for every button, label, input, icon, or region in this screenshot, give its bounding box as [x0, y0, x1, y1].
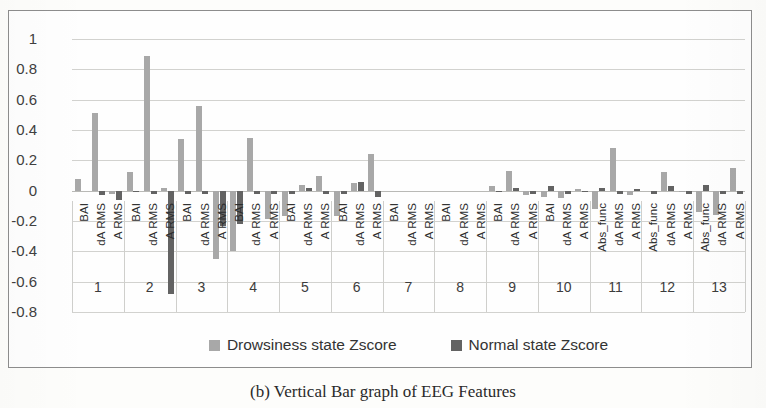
metric-column — [503, 39, 520, 312]
bar-drowsiness — [730, 168, 736, 191]
group-number: 1 — [72, 279, 124, 295]
bar-drowsiness — [696, 191, 702, 212]
metric-column — [262, 39, 279, 312]
bar-normal — [358, 182, 364, 191]
plot-area: 10.80.60.40.20-0.2-0.4-0.6-0.8 — [72, 39, 745, 312]
group-number: 13 — [693, 279, 745, 295]
bar-series-container — [72, 39, 745, 312]
bar-drowsiness — [109, 191, 115, 194]
bar-normal — [202, 191, 208, 194]
metric-column — [486, 39, 503, 312]
group-number: 9 — [486, 279, 538, 295]
group-number: 12 — [641, 279, 693, 295]
bar-drowsiness — [679, 191, 685, 193]
bar-drowsiness — [127, 172, 133, 190]
gridline — [72, 312, 745, 313]
metric-column — [676, 39, 693, 312]
bar-drowsiness — [282, 191, 288, 217]
bar-drowsiness — [316, 176, 322, 191]
group-number: 2 — [124, 279, 176, 295]
bar-normal — [565, 191, 571, 194]
metric-column — [383, 39, 400, 312]
bar-normal — [617, 191, 623, 194]
bar-normal — [548, 186, 554, 191]
bar-normal — [151, 191, 157, 194]
metric-column — [417, 39, 434, 312]
group-number: 10 — [538, 279, 590, 295]
metric-column — [555, 39, 572, 312]
bar-drowsiness — [506, 171, 512, 191]
metric-column — [538, 39, 555, 312]
bar-normal — [289, 191, 295, 194]
metric-column — [469, 39, 486, 312]
group-number: 3 — [176, 279, 228, 295]
metric-column — [158, 39, 175, 312]
group-number: 8 — [434, 279, 486, 295]
y-tick-label: -0.2 — [11, 213, 37, 228]
bar-drowsiness — [230, 191, 236, 252]
chart-frame: 10.80.60.40.20-0.2-0.4-0.6-0.8 BAIdA RMS… — [8, 10, 752, 368]
y-tick-label: 1 — [29, 31, 37, 46]
metric-column — [365, 39, 382, 312]
metric-column — [141, 39, 158, 312]
bar-drowsiness — [713, 191, 719, 215]
chart-legend: Drowsiness state Zscore Normal state Zsc… — [72, 333, 745, 357]
bar-normal — [220, 191, 226, 226]
metric-column — [400, 39, 417, 312]
bar-drowsiness — [75, 179, 81, 191]
bar-drowsiness — [265, 191, 271, 220]
metric-column — [296, 39, 313, 312]
y-tick-label: 0.4 — [16, 122, 37, 137]
bar-drowsiness — [661, 172, 667, 190]
bar-drowsiness — [627, 191, 633, 196]
bar-drowsiness — [178, 139, 184, 191]
bar-drowsiness — [299, 185, 305, 191]
metric-column — [245, 39, 262, 312]
bar-normal — [323, 191, 329, 194]
metric-column — [659, 39, 676, 312]
y-tick-label: 0.2 — [16, 152, 37, 167]
bar-normal — [496, 191, 502, 193]
bar-normal — [599, 188, 605, 191]
y-tick-label: -0.4 — [11, 243, 37, 258]
y-tick-label: -0.6 — [11, 274, 37, 289]
legend-item: Drowsiness state Zscore — [209, 336, 397, 354]
metric-column — [331, 39, 348, 312]
bar-drowsiness — [196, 106, 202, 191]
bar-normal — [513, 188, 519, 191]
bar-normal — [720, 191, 726, 194]
legend-label-drowsiness: Drowsiness state Zscore — [227, 336, 397, 354]
metric-column — [607, 39, 624, 312]
y-tick-label: -0.8 — [11, 304, 37, 319]
bar-drowsiness — [92, 113, 98, 190]
bar-drowsiness — [575, 189, 581, 191]
group-number: 11 — [590, 279, 642, 295]
metric-column — [624, 39, 641, 312]
y-tick-label: 0.6 — [16, 92, 37, 107]
bar-normal — [651, 191, 657, 194]
bar-normal — [668, 186, 674, 191]
metric-column — [590, 39, 607, 312]
bar-normal — [99, 191, 105, 196]
bar-drowsiness — [592, 191, 598, 209]
metric-column — [641, 39, 658, 312]
bar-drowsiness — [368, 154, 374, 190]
figure-container: 10.80.60.40.20-0.2-0.4-0.6-0.8 BAIdA RMS… — [0, 0, 766, 408]
group-separator — [745, 201, 746, 312]
bar-normal — [341, 191, 347, 194]
metric-column — [728, 39, 745, 312]
bar-normal — [686, 191, 692, 194]
metric-column — [176, 39, 193, 312]
legend-swatch-normal — [451, 340, 462, 351]
metric-column — [693, 39, 710, 312]
y-tick-label: 0.8 — [16, 61, 37, 76]
bar-normal — [133, 191, 139, 193]
metric-column — [107, 39, 124, 312]
metric-column — [348, 39, 365, 312]
metric-column — [72, 39, 89, 312]
group-number: 4 — [227, 279, 279, 295]
group-number: 6 — [331, 279, 383, 295]
bar-normal — [271, 191, 277, 194]
metric-column — [210, 39, 227, 312]
bar-drowsiness — [541, 191, 547, 197]
